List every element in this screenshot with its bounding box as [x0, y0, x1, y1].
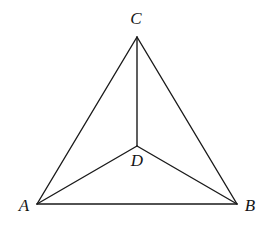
segment-ac: [37, 37, 137, 204]
segment-ad: [37, 146, 137, 204]
vertex-label-b: B: [245, 197, 256, 214]
segment-bc: [137, 37, 237, 204]
vertex-label-a: A: [19, 197, 30, 214]
segment-bd: [137, 146, 237, 204]
vertex-label-c: C: [130, 10, 142, 27]
geometry-diagram: [0, 0, 268, 228]
vertex-label-d: D: [131, 152, 143, 169]
geometry-figure: C D A B: [0, 0, 268, 228]
